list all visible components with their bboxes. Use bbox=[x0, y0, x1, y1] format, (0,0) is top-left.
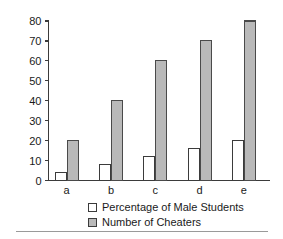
bar bbox=[188, 149, 199, 181]
bar bbox=[244, 21, 255, 181]
bottom-divider bbox=[16, 231, 268, 232]
bar bbox=[200, 41, 211, 181]
x-axis-labels: abcde bbox=[64, 184, 247, 196]
plot-area: 01020304050607080 abcde bbox=[0, 0, 283, 196]
y-tick-label: 40 bbox=[29, 95, 41, 107]
bar-chart-svg: 01020304050607080 abcde bbox=[0, 0, 283, 196]
open-square-swatch-icon bbox=[88, 203, 97, 212]
legend-label: Percentage of Male Students bbox=[102, 201, 244, 213]
y-axis-ticks: 01020304050607080 bbox=[29, 15, 48, 187]
legend-item-percentage-of-male-students: Percentage of Male Students bbox=[88, 200, 278, 214]
x-tick-label: b bbox=[108, 184, 114, 196]
bar bbox=[99, 165, 110, 181]
bar bbox=[144, 157, 155, 181]
y-tick-label: 0 bbox=[35, 175, 41, 187]
y-tick-label: 60 bbox=[29, 55, 41, 67]
y-tick-label: 30 bbox=[29, 115, 41, 127]
y-tick-label: 20 bbox=[29, 135, 41, 147]
chart-figure: 01020304050607080 abcde Percentage of Ma… bbox=[0, 0, 283, 239]
bar bbox=[67, 141, 78, 181]
bar bbox=[232, 141, 243, 181]
y-tick-label: 70 bbox=[29, 35, 41, 47]
bar bbox=[156, 61, 167, 181]
x-tick-label: e bbox=[241, 184, 247, 196]
chart-legend: Percentage of Male Students Number of Ch… bbox=[88, 200, 278, 230]
legend-item-number-of-cheaters: Number of Cheaters bbox=[88, 215, 278, 229]
legend-label: Number of Cheaters bbox=[102, 216, 201, 228]
y-tick-label: 80 bbox=[29, 15, 41, 27]
y-tick-label: 10 bbox=[29, 155, 41, 167]
filled-square-swatch-icon bbox=[88, 218, 97, 227]
x-tick-label: d bbox=[196, 184, 202, 196]
bar bbox=[111, 101, 122, 181]
bar-group bbox=[55, 21, 255, 181]
y-tick-label: 50 bbox=[29, 75, 41, 87]
x-tick-label: a bbox=[64, 184, 71, 196]
bar bbox=[55, 173, 66, 181]
x-tick-label: c bbox=[153, 184, 159, 196]
